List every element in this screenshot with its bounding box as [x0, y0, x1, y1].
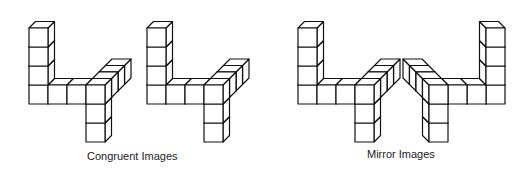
cube-front-face — [86, 123, 105, 142]
cube-front-face — [185, 85, 204, 104]
cube-front-face — [86, 104, 105, 123]
cube-front-face — [298, 47, 317, 66]
cube-front-face — [429, 123, 448, 142]
cube-front-face — [29, 28, 48, 47]
cube-front-face — [336, 85, 355, 104]
cube-front-face — [147, 66, 166, 85]
cube-front-face — [355, 85, 374, 104]
cube-front-face — [486, 47, 505, 66]
cube-front-face — [355, 104, 374, 123]
cube-front-face — [486, 85, 505, 104]
cube-front-face — [86, 85, 105, 104]
cube-front-face — [317, 85, 336, 104]
cube-front-face — [29, 47, 48, 66]
mirror-images-caption: Mirror Images — [367, 148, 435, 160]
cube-front-face — [298, 66, 317, 85]
mirror-figure-2 — [403, 22, 505, 143]
cube-front-face — [298, 28, 317, 47]
cube-front-face — [147, 28, 166, 47]
cube-front-face — [29, 66, 48, 85]
cube-front-face — [29, 85, 48, 104]
congruent-figure-2 — [147, 22, 249, 143]
cube-front-face — [298, 85, 317, 104]
cube-figures-canvas — [0, 0, 532, 176]
cube-front-face — [486, 28, 505, 47]
cube-front-face — [204, 104, 223, 123]
cube-front-face — [67, 85, 86, 104]
cube-front-face — [486, 66, 505, 85]
cube-front-face — [355, 123, 374, 142]
cube-front-face — [147, 47, 166, 66]
cube-front-face — [204, 85, 223, 104]
cube-front-face — [467, 85, 486, 104]
cube-front-face — [166, 85, 185, 104]
congruent-images-caption: Congruent Images — [87, 150, 178, 162]
cube-front-face — [448, 85, 467, 104]
congruent-figure-1 — [29, 22, 131, 143]
cube-front-face — [48, 85, 67, 104]
cube-front-face — [429, 104, 448, 123]
cube-front-face — [429, 85, 448, 104]
mirror-figure-1 — [298, 22, 400, 143]
cube-front-face — [147, 85, 166, 104]
cube-front-face — [204, 123, 223, 142]
